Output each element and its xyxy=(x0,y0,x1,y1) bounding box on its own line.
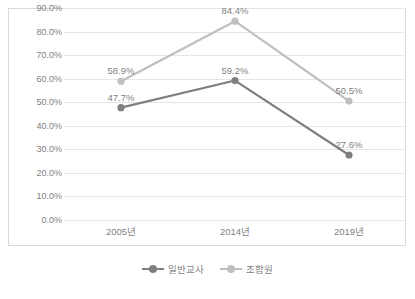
line-chart: 0.0%10.0%20.0%30.0%40.0%50.0%60.0%70.0%8… xyxy=(0,0,415,299)
y-axis: 0.0%10.0%20.0%30.0%40.0%50.0%60.0%70.0%8… xyxy=(10,8,62,246)
data-point[interactable] xyxy=(117,104,124,111)
data-point[interactable] xyxy=(345,151,352,158)
gridline xyxy=(64,220,406,221)
legend-item-teacher[interactable]: 일반교사 xyxy=(142,262,204,276)
series-line xyxy=(121,21,349,101)
x-axis: 2005년2014년2019년 xyxy=(64,224,406,244)
legend-marker-teacher xyxy=(142,264,164,274)
legend-marker-member xyxy=(220,264,242,274)
data-point-label: 59.2% xyxy=(222,65,249,76)
legend-label-member: 조합원 xyxy=(246,262,273,276)
y-tick-label: 80.0% xyxy=(10,27,62,37)
chart-legend: 일반교사 조합원 xyxy=(0,262,415,276)
y-tick-label: 10.0% xyxy=(10,191,62,201)
plot-area xyxy=(64,8,406,220)
legend-item-member[interactable]: 조합원 xyxy=(220,262,273,276)
data-point[interactable] xyxy=(231,77,238,84)
y-tick-label: 40.0% xyxy=(10,121,62,131)
y-tick-label: 30.0% xyxy=(10,144,62,154)
data-point-label: 47.7% xyxy=(108,92,135,103)
y-tick-label: 90.0% xyxy=(10,3,62,13)
series-lines xyxy=(64,8,406,220)
y-tick-label: 50.0% xyxy=(10,97,62,107)
x-tick-label: 2019년 xyxy=(334,224,364,238)
y-tick-label: 20.0% xyxy=(10,168,62,178)
y-tick-label: 70.0% xyxy=(10,50,62,60)
x-tick-label: 2014년 xyxy=(220,224,250,238)
legend-label-teacher: 일반교사 xyxy=(168,262,204,276)
series-line xyxy=(121,81,349,155)
data-point-label: 84.4% xyxy=(222,5,249,16)
data-point[interactable] xyxy=(117,78,124,85)
y-tick-label: 60.0% xyxy=(10,74,62,84)
data-point-label: 58.9% xyxy=(108,65,135,76)
y-tick-label: 0.0% xyxy=(10,215,62,225)
x-tick-label: 2005년 xyxy=(106,224,136,238)
data-point-label: 50.5% xyxy=(336,85,363,96)
data-point-label: 27.6% xyxy=(336,139,363,150)
data-point[interactable] xyxy=(345,97,352,104)
data-point[interactable] xyxy=(231,18,238,25)
